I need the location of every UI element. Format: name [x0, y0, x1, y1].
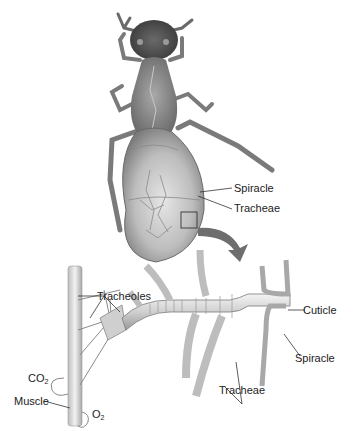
- label-tracheae-bottom: Tracheae: [219, 384, 265, 396]
- label-tracheoles: Tracheoles: [97, 290, 151, 302]
- label-o2: O2: [92, 408, 104, 424]
- label-co2: CO2: [28, 372, 48, 388]
- tracheal-system-diagram: [0, 0, 353, 431]
- label-tracheae-top: Tracheae: [234, 202, 280, 214]
- tracheal-detail-illustration: [44, 250, 305, 427]
- label-cuticle: Cuticle: [303, 304, 337, 316]
- muscle-fiber: [68, 266, 82, 426]
- label-spiracle-bottom: Spiracle: [295, 352, 335, 364]
- magnify-arrow-icon: [198, 228, 248, 262]
- insect-illustration: [110, 14, 272, 262]
- label-muscle: Muscle: [14, 395, 49, 407]
- label-spiracle-top: Spiracle: [234, 182, 274, 194]
- cuticle-layer: [262, 260, 288, 294]
